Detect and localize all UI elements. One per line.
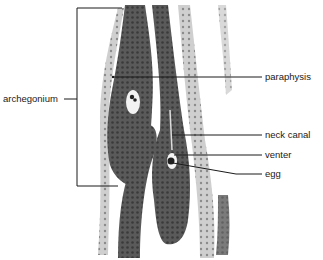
label-paraphysis: paraphysis xyxy=(265,72,311,82)
left-venter-cavity xyxy=(126,90,140,114)
label-venter: venter xyxy=(265,150,291,160)
right-strand-2 xyxy=(218,5,232,95)
diagram: archegonium paraphysis neck canal venter… xyxy=(0,0,323,260)
label-archegonium: archegonium xyxy=(3,94,58,104)
right-strand-3 xyxy=(216,195,230,255)
label-neck-canal: neck canal xyxy=(265,130,310,140)
label-egg: egg xyxy=(265,169,281,179)
